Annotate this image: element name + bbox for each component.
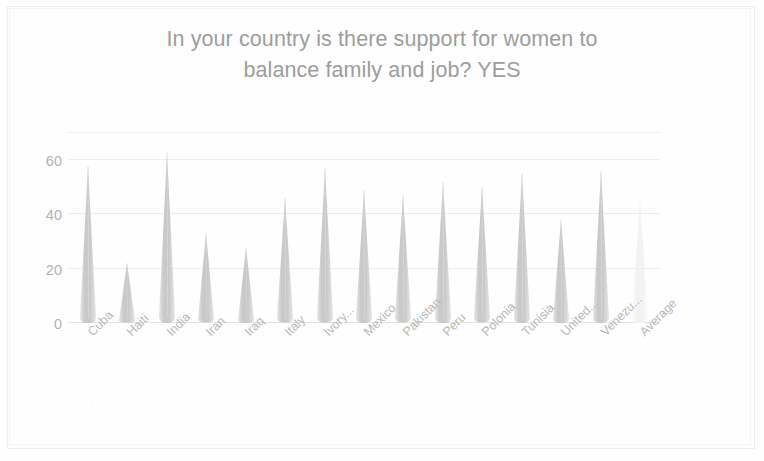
- cone-shape: [353, 190, 375, 323]
- cone-shape: [392, 195, 414, 323]
- cone-shape: [274, 198, 296, 323]
- cone-shape: [235, 247, 257, 323]
- cone-shape: [471, 187, 493, 323]
- cone-shape: [116, 263, 138, 323]
- bar-series: [68, 133, 660, 323]
- cone-shape: [156, 152, 178, 323]
- chart-page: In your country is there support for wom…: [0, 0, 764, 461]
- cone-shape: [511, 174, 533, 323]
- cone-shape: [195, 233, 217, 323]
- y-tick-label-40: 40: [22, 207, 62, 223]
- x-axis-labels: CubaHaitiIndiaIranIraqItalyIvory...Mexic…: [68, 323, 660, 413]
- chart-title-line-1: In your country is there support for wom…: [92, 24, 672, 55]
- y-axis: 0204060: [18, 133, 62, 323]
- y-tick-label-0: 0: [22, 316, 62, 332]
- y-tick-label-60: 60: [22, 153, 62, 169]
- cone-shape: [77, 166, 99, 323]
- chart-title-line-2: balance family and job? YES: [92, 55, 672, 86]
- y-tick-label-20: 20: [22, 262, 62, 278]
- chart-title: In your country is there support for wom…: [92, 24, 672, 86]
- cone-shape: [314, 168, 336, 323]
